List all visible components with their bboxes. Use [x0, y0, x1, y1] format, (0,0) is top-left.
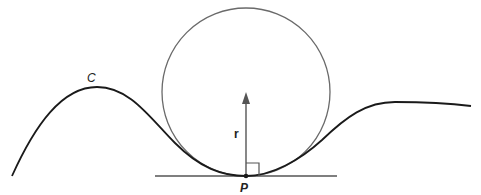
right-angle-marker — [246, 163, 259, 176]
point-p-dot — [244, 174, 249, 179]
arrowhead-icon — [242, 92, 250, 104]
curve-c — [12, 87, 471, 176]
point-label: P — [240, 181, 249, 195]
osculating-circle-diagram: C r P — [0, 0, 481, 195]
curve-label: C — [87, 71, 96, 85]
radius-label: r — [234, 127, 239, 141]
